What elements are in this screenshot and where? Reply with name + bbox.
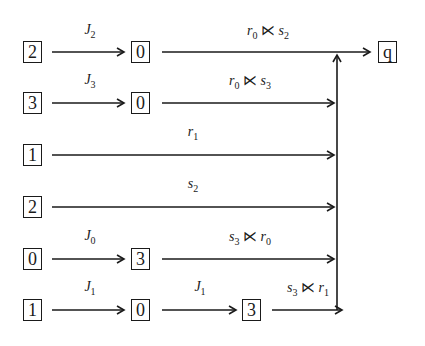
transition-label: J0 xyxy=(84,228,95,246)
transition-label: s3 ⋉ r1 xyxy=(287,279,329,298)
state-box: 0 xyxy=(131,92,150,114)
transition-label: J1 xyxy=(84,279,95,297)
state-box: 2 xyxy=(23,196,42,218)
state-box: 1 xyxy=(23,144,42,166)
state-box: 0 xyxy=(131,41,150,63)
state-box: 3 xyxy=(131,248,150,270)
state-box: 2 xyxy=(23,41,42,63)
transition-label: J3 xyxy=(84,72,95,90)
transition-label: s2 xyxy=(188,176,198,194)
state-box: 3 xyxy=(23,92,42,114)
state-box: 0 xyxy=(131,299,150,321)
state-box: 0 xyxy=(23,248,42,270)
transition-label: r1 xyxy=(188,124,198,142)
transition-label: r0 ⋉ s3 xyxy=(229,72,271,91)
target-state-box: q xyxy=(378,41,397,63)
transition-label: r0 ⋉ s2 xyxy=(247,22,289,41)
transition-label: J1 xyxy=(194,279,205,297)
arrows-layer xyxy=(0,0,425,346)
state-box: 3 xyxy=(242,299,261,321)
state-box: 1 xyxy=(23,299,42,321)
transition-label: J2 xyxy=(84,22,95,40)
transition-label: s3 ⋉ r0 xyxy=(229,228,271,247)
